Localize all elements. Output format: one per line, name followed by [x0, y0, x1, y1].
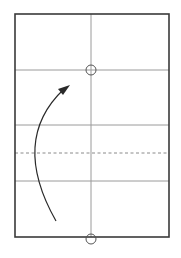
creases [15, 14, 169, 237]
origami-diagram: origami-fold-step [0, 0, 181, 258]
diagram-canvas [0, 0, 181, 258]
